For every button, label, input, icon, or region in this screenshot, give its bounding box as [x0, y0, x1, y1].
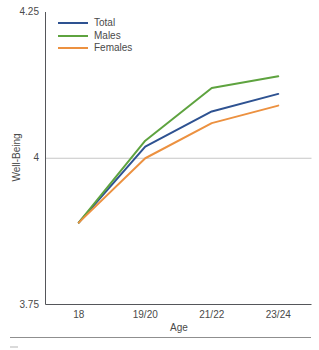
legend-line-swatch-total	[58, 22, 88, 24]
y-axis-title: Well-Being	[10, 118, 23, 198]
plot-canvas	[0, 0, 319, 350]
legend-line-swatch-males	[58, 35, 88, 37]
series-line-males	[79, 76, 279, 222]
x-tick-label-18: 18	[49, 309, 109, 321]
legend-label-total: Total	[94, 18, 115, 28]
legend-line-swatch-females	[58, 47, 88, 49]
x-axis-title: Age	[149, 322, 209, 334]
x-tick-label-23-24: 23/24	[248, 309, 308, 321]
x-tick-label-21-22: 21/22	[182, 309, 242, 321]
y-tick-label-4-25: 4.25	[0, 6, 39, 18]
chart-legend: Total Males Females	[58, 18, 132, 56]
y-tick-label-3-75: 3.75	[0, 299, 39, 311]
legend-item-total: Total	[58, 18, 132, 28]
series-line-females	[79, 106, 279, 223]
legend-item-males: Males	[58, 31, 132, 41]
bottom-divider-rule	[10, 337, 311, 338]
cropped-caption-artifact	[10, 346, 18, 348]
legend-label-females: Females	[94, 43, 132, 53]
x-tick-label-19-20: 19/20	[115, 309, 175, 321]
wellbeing-by-age-line-chart: 4.25 4 3.75 18 19/20 21/22 23/24 Age Wel…	[0, 0, 319, 350]
legend-label-males: Males	[94, 31, 121, 41]
legend-item-females: Females	[58, 43, 132, 53]
